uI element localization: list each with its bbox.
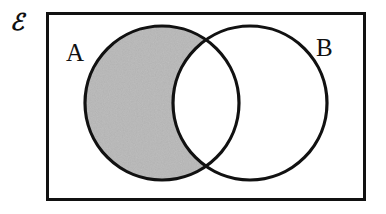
region-a-minus-b-shading (40, 10, 360, 205)
universal-set-label: ℰ (10, 10, 24, 33)
venn-diagram-figure: ℰ A B (0, 0, 386, 214)
set-a-label: A (66, 40, 84, 65)
venn-diagram-canvas (0, 0, 386, 214)
set-b-label: B (316, 35, 333, 60)
